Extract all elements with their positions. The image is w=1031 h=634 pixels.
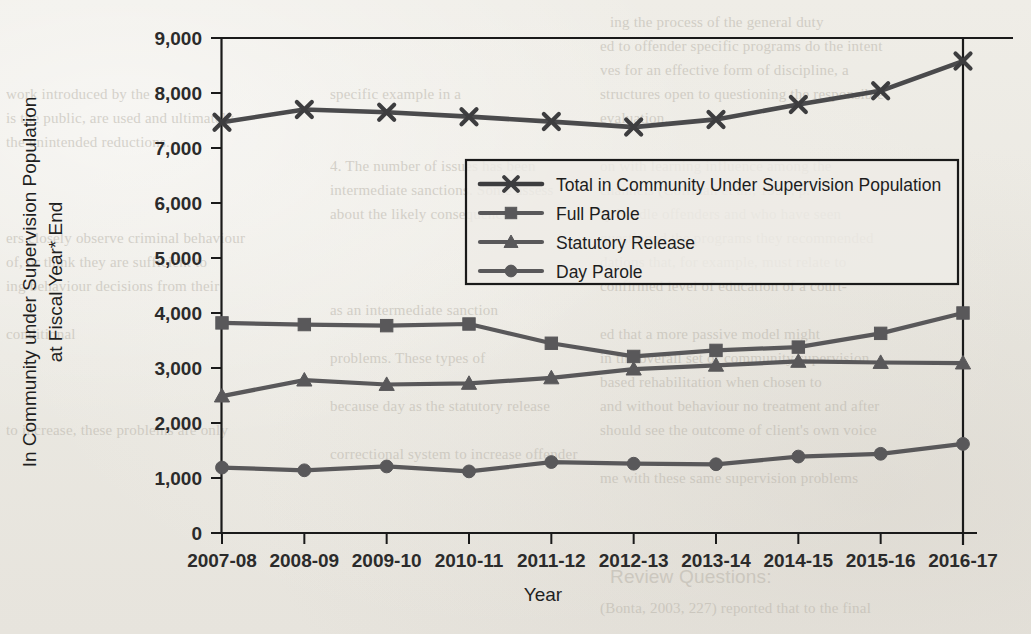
x-tick-label: 2016-17 bbox=[928, 550, 998, 571]
series-1 bbox=[215, 54, 971, 135]
x-tick-label: 2013-14 bbox=[681, 550, 751, 571]
line-chart: In Community under Supervision Populatio… bbox=[0, 0, 1031, 634]
data-point-marker bbox=[298, 464, 311, 477]
series-2 bbox=[216, 307, 969, 363]
series-line bbox=[222, 313, 963, 356]
x-tick-label: 2012-13 bbox=[599, 550, 669, 571]
x-tick-label: 2008-09 bbox=[269, 550, 339, 571]
data-point-marker bbox=[463, 318, 475, 330]
x-tick-label: 2014-15 bbox=[763, 550, 833, 571]
data-point-marker bbox=[216, 317, 228, 329]
data-point-marker bbox=[792, 341, 804, 353]
y-tick-label: 4,000 bbox=[154, 303, 202, 324]
data-point-marker bbox=[298, 318, 310, 330]
data-point-marker bbox=[627, 457, 640, 470]
data-point-marker bbox=[216, 461, 229, 474]
data-point-marker bbox=[505, 265, 517, 277]
series-3 bbox=[214, 354, 970, 402]
x-tick-label: 2010-11 bbox=[435, 550, 504, 571]
legend-label: Day Parole bbox=[556, 262, 643, 282]
data-point-marker bbox=[710, 458, 723, 471]
x-axis-title: Year bbox=[524, 584, 563, 605]
y-tick-label: 7,000 bbox=[154, 138, 202, 159]
x-tick-label: 2009-10 bbox=[352, 550, 422, 571]
x-axis-ticks: 2007-082008-092009-102010-112011-122012-… bbox=[187, 533, 998, 571]
data-point-marker bbox=[957, 438, 970, 451]
data-point-marker bbox=[380, 319, 392, 331]
y-tick-label: 5,000 bbox=[154, 248, 202, 269]
y-tick-label: 2,000 bbox=[154, 413, 202, 434]
series-line bbox=[222, 361, 963, 396]
y-axis-title: In Community under Supervision Populatio… bbox=[19, 97, 66, 468]
series-4 bbox=[216, 438, 970, 478]
legend-label: Full Parole bbox=[556, 204, 640, 224]
chart-svg: In Community under Supervision Populatio… bbox=[0, 0, 1031, 634]
y-axis-title-line1: In Community under Supervision Populatio… bbox=[19, 97, 40, 468]
data-point-marker bbox=[545, 456, 558, 469]
data-point-marker bbox=[380, 460, 393, 473]
data-point-marker bbox=[710, 344, 722, 356]
data-point-marker bbox=[463, 465, 476, 478]
y-tick-label: 8,000 bbox=[154, 83, 202, 104]
chart-legend: Total in Community Under Supervision Pop… bbox=[466, 160, 958, 284]
data-point-marker bbox=[792, 450, 805, 463]
y-tick-label: 9,000 bbox=[154, 28, 202, 49]
data-point-marker bbox=[545, 337, 557, 349]
y-tick-label: 3,000 bbox=[154, 358, 202, 379]
series-line bbox=[222, 61, 963, 127]
legend-label: Total in Community Under Supervision Pop… bbox=[556, 175, 941, 195]
data-point-marker bbox=[505, 207, 516, 218]
data-point-marker bbox=[957, 307, 969, 319]
x-tick-label: 2007-08 bbox=[187, 550, 257, 571]
data-point-marker bbox=[874, 447, 887, 460]
x-tick-label: 2015-16 bbox=[846, 550, 916, 571]
y-axis-title-line2: at Fiscal Year* End bbox=[45, 202, 66, 363]
series-line bbox=[222, 444, 963, 472]
y-tick-label: 0 bbox=[191, 523, 202, 544]
y-tick-label: 1,000 bbox=[154, 468, 202, 489]
x-tick-label: 2011-12 bbox=[517, 550, 586, 571]
legend-label: Statutory Release bbox=[556, 233, 695, 253]
data-point-marker bbox=[874, 327, 886, 339]
y-axis-ticks: 01,0002,0003,0004,0005,0006,0007,0008,00… bbox=[154, 28, 222, 544]
y-tick-label: 6,000 bbox=[154, 193, 202, 214]
